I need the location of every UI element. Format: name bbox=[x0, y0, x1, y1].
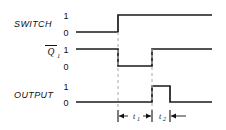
signal-label-switch: SWITCH bbox=[14, 19, 52, 29]
interval-annotation-t2: t 2 bbox=[159, 110, 186, 122]
signal-label-output: OUTPUT bbox=[14, 90, 54, 100]
signal-label-q1bar-subscript: 1 bbox=[57, 52, 60, 59]
arrow-head-t1-left-icon bbox=[119, 114, 124, 119]
level-label-switch-low: 0 bbox=[63, 28, 68, 38]
waveform-q1bar bbox=[76, 49, 212, 66]
signal-label-q1bar: Q bbox=[48, 47, 55, 57]
arrow-head-t2-right-icon bbox=[171, 114, 176, 119]
interval-label-t1-subscript: 1 bbox=[137, 116, 140, 122]
signal-row-q1bar: Q 1 1 0 bbox=[45, 45, 212, 72]
level-label-switch-high: 1 bbox=[63, 11, 68, 21]
level-label-output-high: 1 bbox=[63, 82, 68, 92]
signal-row-switch: SWITCH 1 0 bbox=[14, 11, 212, 38]
interval-label-t1: t bbox=[133, 112, 136, 121]
arrow-head-t1-right-icon bbox=[146, 114, 151, 119]
timing-diagram-figure: SWITCH 1 0 Q 1 1 0 OUTPUT 1 0 bbox=[0, 0, 226, 130]
waveform-output bbox=[76, 86, 212, 102]
waveform-switch bbox=[76, 15, 212, 32]
level-label-q1bar-low: 0 bbox=[63, 62, 68, 72]
signal-row-output: OUTPUT 1 0 bbox=[14, 82, 212, 108]
level-label-q1bar-high: 1 bbox=[63, 45, 68, 55]
level-label-output-low: 0 bbox=[63, 98, 68, 108]
interval-label-t2-subscript: 2 bbox=[163, 116, 166, 122]
interval-annotation-t1: t 1 bbox=[118, 110, 152, 122]
interval-label-t2: t bbox=[159, 112, 162, 121]
